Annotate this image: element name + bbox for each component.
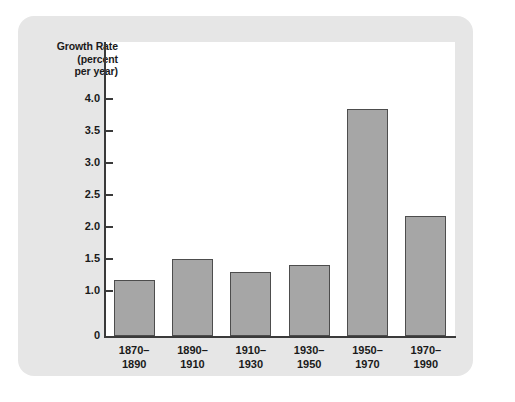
y-tick-label: 2.5 — [50, 188, 100, 200]
bar-series — [105, 42, 455, 337]
bar — [114, 280, 155, 336]
x-tick-label-line: 1990 — [392, 357, 460, 371]
y-tick-label: 1.0 — [50, 284, 100, 296]
y-tick-label: 1.5 — [50, 252, 100, 264]
bar — [347, 109, 388, 336]
bar — [230, 272, 271, 336]
bar — [289, 265, 330, 336]
bar — [405, 216, 446, 336]
bar — [172, 259, 213, 336]
y-tick-label: 3.0 — [50, 156, 100, 168]
y-tick-label: 4.0 — [50, 92, 100, 104]
x-tick-label: 1970–1990 — [392, 343, 460, 371]
y-tick-label: 2.0 — [50, 220, 100, 232]
chart-figure: Growth Rate (percent per year) 4.03.53.0… — [0, 0, 515, 402]
y-tick-label: 0 — [50, 329, 100, 341]
x-tick-label-line: 1970– — [392, 343, 460, 357]
y-tick-label: 3.5 — [50, 124, 100, 136]
